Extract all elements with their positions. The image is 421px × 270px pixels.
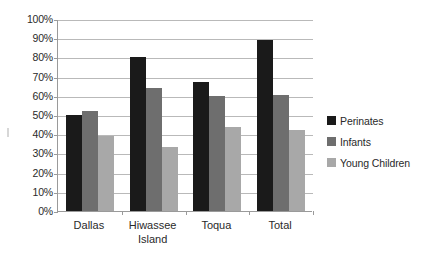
- bar-group: [186, 20, 250, 211]
- x-axis-category-label-line: Dallas: [74, 219, 105, 231]
- x-axis-category-label: Toqua: [185, 218, 249, 232]
- y-axis-tick-label: 10%: [9, 187, 53, 198]
- x-axis-category-label: HiwasseeIsland: [121, 218, 185, 246]
- y-axis-tick-label: 50%: [9, 110, 53, 121]
- bar-group: [58, 20, 122, 211]
- legend-color-swatch: [327, 116, 336, 125]
- y-axis: 0%10%20%30%40%50%60%70%80%90%100%: [0, 0, 53, 270]
- legend-item-label: Infants: [340, 136, 371, 148]
- y-axis-tick-label: 0%: [9, 206, 53, 217]
- bar: [209, 96, 225, 211]
- bar: [82, 111, 98, 211]
- bar-group: [122, 20, 186, 211]
- y-axis-tick-label: 30%: [9, 148, 53, 159]
- legend-color-swatch: [327, 137, 336, 146]
- bar: [193, 82, 209, 211]
- bar-group: [249, 20, 313, 211]
- y-axis-tick-label: 20%: [9, 168, 53, 179]
- x-axis-category-label-line: Toqua: [201, 219, 231, 231]
- bar: [225, 127, 241, 211]
- legend-item: Perinates: [327, 110, 419, 131]
- bar: [98, 136, 114, 211]
- x-axis-tick-mark: [313, 211, 314, 215]
- chart-legend: PerinatesInfantsYoung Children: [327, 110, 419, 173]
- x-axis-category-label-line: Hiwassee: [129, 219, 177, 231]
- y-axis-tick-label: 100%: [9, 14, 53, 25]
- bar: [66, 115, 82, 211]
- legend-item: Infants: [327, 131, 419, 152]
- x-axis-category-label-line: Total: [269, 219, 292, 231]
- legend-color-swatch: [327, 158, 336, 167]
- bar-chart: 0%10%20%30%40%50%60%70%80%90%100% Perina…: [0, 0, 421, 270]
- x-axis-tick-mark: [249, 211, 250, 215]
- plot-area: [57, 20, 312, 212]
- y-axis-tick-label: 80%: [9, 52, 53, 63]
- x-axis-category-label: Total: [248, 218, 312, 232]
- x-axis-category-label: Dallas: [57, 218, 121, 232]
- y-axis-tick-label: 60%: [9, 91, 53, 102]
- y-axis-tick-label: 90%: [9, 33, 53, 44]
- bar: [273, 95, 289, 211]
- x-axis-category-label-line: Island: [121, 232, 185, 246]
- y-axis-tick-mark: [54, 212, 58, 213]
- x-axis-tick-mark: [122, 211, 123, 215]
- bar: [146, 88, 162, 211]
- bar: [162, 147, 178, 211]
- legend-item-label: Young Children: [340, 157, 410, 169]
- bar: [130, 57, 146, 211]
- legend-item-label: Perinates: [340, 115, 383, 127]
- legend-item: Young Children: [327, 152, 419, 173]
- y-axis-tick-label: 70%: [9, 72, 53, 83]
- x-axis-tick-mark: [186, 211, 187, 215]
- bar: [257, 40, 273, 211]
- bar: [289, 130, 305, 211]
- y-axis-tick-label: 40%: [9, 129, 53, 140]
